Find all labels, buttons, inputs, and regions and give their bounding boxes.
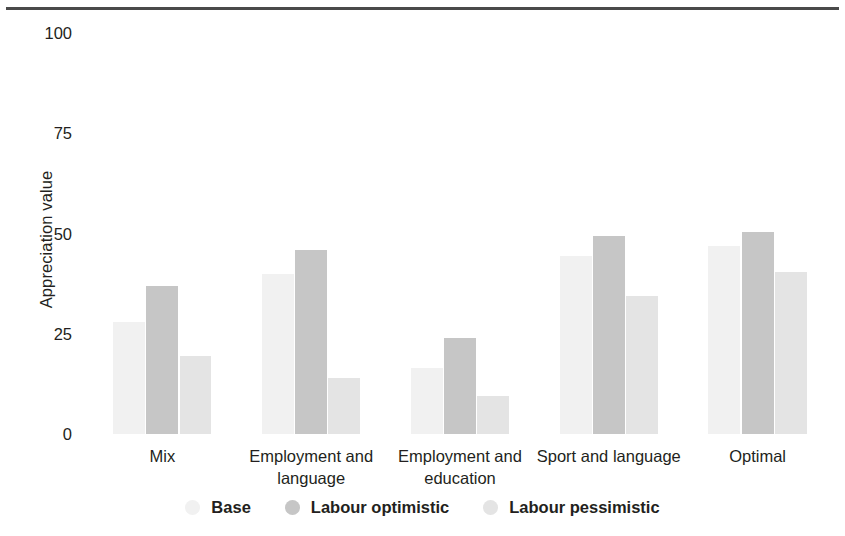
legend-label: Labour pessimistic (509, 498, 659, 517)
bar (708, 246, 740, 434)
bar-groups: MixEmployment and languageEmployment and… (88, 33, 832, 434)
bar (146, 286, 178, 434)
x-tick-label: Optimal (673, 446, 843, 468)
bar (180, 356, 212, 434)
x-tick-label: Sport and language (524, 446, 694, 468)
bar (328, 378, 360, 434)
bar-group: Employment and language (237, 33, 386, 434)
chart-legend: BaseLabour optimisticLabour pessimistic (0, 498, 845, 517)
bar (593, 236, 625, 434)
bar-group: Employment and education (386, 33, 535, 434)
bar (477, 396, 509, 434)
y-tick-label: 0 (63, 425, 72, 444)
legend-item[interactable]: Labour optimistic (285, 498, 449, 517)
y-tick-label: 25 (54, 324, 72, 343)
bar (262, 274, 294, 434)
plot-area: 0 25 50 75 100 MixEmployment and languag… (88, 33, 832, 434)
bar (626, 296, 658, 434)
legend-swatch-icon (483, 500, 498, 515)
bar (775, 272, 807, 434)
legend-swatch-icon (285, 500, 300, 515)
y-axis-title: Appreciation value (37, 110, 56, 370)
bar (560, 256, 592, 434)
legend-label: Labour optimistic (311, 498, 449, 517)
bar (444, 338, 476, 434)
legend-item[interactable]: Base (185, 498, 250, 517)
y-tick-label: 75 (54, 124, 72, 143)
bar-group: Optimal (683, 33, 832, 434)
legend-label: Base (211, 498, 250, 517)
bar-group: Sport and language (534, 33, 683, 434)
legend-item[interactable]: Labour pessimistic (483, 498, 659, 517)
legend-swatch-icon (185, 500, 200, 515)
bar (113, 322, 145, 434)
x-tick-label: Mix (77, 446, 247, 468)
x-tick-label: Employment and education (375, 446, 545, 490)
y-tick-label: 100 (44, 24, 72, 43)
y-tick-label: 50 (54, 224, 72, 243)
bar (742, 232, 774, 435)
bar-group: Mix (88, 33, 237, 434)
bar (295, 250, 327, 434)
bar-chart-figure: Appreciation value 0 25 50 75 100 MixEmp… (0, 0, 845, 536)
x-tick-label: Employment and language (226, 446, 396, 490)
bar (411, 368, 443, 434)
top-divider-rule (6, 7, 839, 10)
